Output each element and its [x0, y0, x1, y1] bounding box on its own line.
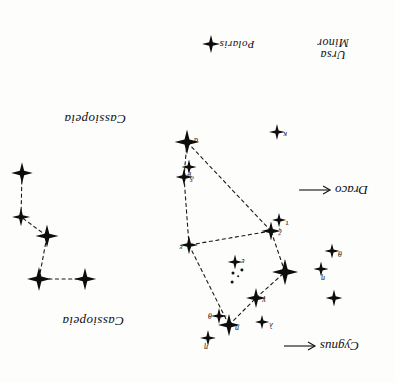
star-greek-label: β [283, 268, 287, 276]
star-marker[interactable] [228, 255, 243, 270]
faint-star-dot [232, 272, 235, 275]
direction-label: Draco [335, 182, 368, 198]
star-marker[interactable] [272, 213, 286, 227]
star-marker[interactable] [200, 330, 216, 346]
star-marker[interactable] [12, 208, 30, 226]
star-greek-label: α [194, 136, 198, 144]
direction-marker-cygnus: Cygnus [283, 338, 359, 354]
constellation-name-line: Minor [317, 37, 349, 49]
constellation-link [189, 231, 271, 245]
star-greek-label: θ [338, 249, 342, 257]
faint-star-dot [237, 275, 239, 277]
star-greek-label: γ [262, 296, 265, 304]
constellation-name-polaris: Polaris [219, 38, 254, 50]
direction-arrow-icon [298, 185, 332, 195]
star-greek-label: τ [286, 219, 289, 227]
star-marker[interactable] [211, 308, 227, 324]
star-marker[interactable] [35, 224, 58, 247]
star-greek-label: ε [241, 257, 244, 265]
polaris-legend-symbol [202, 35, 220, 53]
star-greek-label: ζ [278, 227, 281, 235]
star-greek-label: μ [187, 172, 191, 180]
star-marker[interactable] [74, 268, 96, 290]
faint-star-dot [230, 280, 233, 283]
star-greek-label: ε [179, 243, 182, 251]
star-chart-canvas: αδεζβγηθηληθτκμεCassiopeiaCassiopeiaPola… [0, 0, 395, 382]
star-greek-label: η [204, 343, 208, 351]
star-greek-label: κ [283, 130, 287, 138]
star-marker[interactable] [326, 290, 343, 307]
constellation-link [187, 142, 271, 231]
constellation-name-ursa-minor: UrsaMinor [317, 37, 349, 61]
star-greek-label: θ [208, 311, 212, 319]
star-marker[interactable] [11, 162, 33, 184]
star-marker[interactable] [27, 267, 51, 291]
direction-arrow-icon [283, 341, 317, 351]
constellation-name-line: Ursa [317, 49, 349, 61]
star-greek-label: λ [269, 321, 272, 329]
star-greek-label: η [235, 324, 239, 332]
constellation-link [184, 177, 189, 245]
direction-marker-draco: Draco [298, 182, 368, 198]
star-marker[interactable] [255, 315, 269, 329]
constellation-name-cassiopeia: Cassiopeia [62, 314, 124, 328]
direction-label: Cygnus [320, 338, 359, 354]
star-greek-label: η [321, 274, 325, 282]
constellation-name-cassiopeia: Cassiopeia [64, 112, 126, 126]
faint-star-dot [241, 269, 244, 272]
star-chart-plate: αδεζβγηθηληθτκμεCassiopeiaCassiopeiaPola… [0, 0, 395, 382]
